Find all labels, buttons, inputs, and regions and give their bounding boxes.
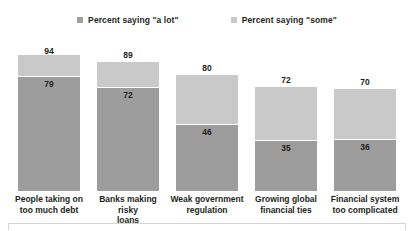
bar-segment-some [334,89,396,139]
plot-area: 94 79 89 72 80 46 72 [14,46,400,191]
stacked-bar-chart: Percent saying "a lot" Percent saying "s… [0,0,414,231]
legend-label-a-lot: Percent saying "a lot" [88,15,179,25]
bar-a-lot-label: 35 [255,143,317,153]
bar-column: 89 72 [97,46,159,191]
legend-swatch-a-lot-icon [77,17,83,23]
category-label-line: Growing global [247,194,325,205]
bar-column: 70 36 [334,46,396,191]
bar-segment-some [18,55,80,76]
bar-segment-a-lot [18,76,80,191]
legend-swatch-some-icon [231,17,237,23]
category-label-line: regulation [168,205,246,216]
chart-legend: Percent saying "a lot" Percent saying "s… [0,13,414,27]
category-label-line: too much debt [10,205,88,216]
bar-total-label: 80 [176,63,238,73]
category-label-line: financial ties [247,205,325,216]
legend-item-some: Percent saying "some" [231,15,337,25]
bar-segment-some [176,75,238,124]
bar-segment-a-lot [97,87,159,191]
bar-total-label: 70 [334,77,396,87]
legend-item-a-lot: Percent saying "a lot" [77,15,179,25]
category-label: Financial system too complicated [326,194,404,215]
category-label-line: Banks making risky [89,194,167,215]
bar-segment-some [97,62,159,87]
bar-stack [97,62,159,191]
bar-a-lot-label: 36 [334,142,396,152]
bar-column: 72 35 [255,46,317,191]
category-label: Weak government regulation [168,194,246,215]
bar-stack [334,89,396,191]
bar-a-lot-label: 79 [18,79,80,89]
category-label-line: People taking on [10,194,88,205]
bar-stack [255,87,317,191]
category-label-line: Weak government [168,194,246,205]
bar-a-lot-label: 72 [97,90,159,100]
category-label: Growing global financial ties [247,194,325,215]
category-label: Banks making risky loans [89,194,167,226]
bar-segment-some [255,87,317,140]
category-label-line: Financial system [326,194,404,205]
bar-a-lot-label: 46 [176,127,238,137]
bar-total-label: 72 [255,75,317,85]
bar-column: 94 79 [18,46,80,191]
bar-column: 80 46 [176,46,238,191]
category-label-line: too complicated [326,205,404,216]
category-axis: People taking on too much debt Banks mak… [14,194,400,220]
footer-rule [8,223,406,230]
bar-stack [18,55,80,191]
legend-label-some: Percent saying "some" [242,15,337,25]
category-label: People taking on too much debt [10,194,88,215]
bar-total-label: 89 [97,50,159,60]
